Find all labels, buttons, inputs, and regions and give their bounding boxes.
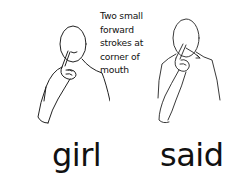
word-label-said: said: [160, 138, 223, 172]
said-sign-illustration: [150, 10, 225, 125]
head-outline: [60, 26, 86, 62]
caption-line: Two small: [100, 9, 160, 23]
caption-line: strokes at: [100, 36, 160, 50]
caption-line: forward: [100, 23, 160, 37]
caption-line: mouth: [100, 63, 160, 77]
head-outline: [173, 19, 199, 57]
word-label-girl: girl: [52, 138, 101, 172]
sign-instruction-caption: Two small forward strokes at corner of m…: [100, 9, 160, 77]
girl-sign-illustration: [30, 15, 110, 125]
caption-line: corner of: [100, 50, 160, 64]
